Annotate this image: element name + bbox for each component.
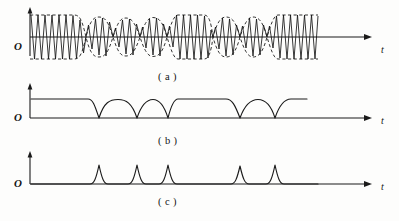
origin-label-c: O (14, 178, 22, 189)
t-axis-label-a: t (381, 45, 384, 55)
clipped-envelope-trace-b (31, 99, 307, 118)
panel-b-y-axis (28, 83, 33, 118)
t-axis-label-b: t (381, 116, 384, 126)
panel-c-waveform (0, 144, 399, 221)
panel-b-t-axis (30, 115, 372, 121)
panel-caption-b: ( b ) (158, 136, 178, 147)
panel-a-waveform (0, 0, 399, 72)
t-axis-label-c: t (381, 182, 384, 192)
panel-caption-c: ( c ) (158, 197, 177, 208)
panel-a-y-axis (28, 7, 33, 56)
pulse-train-trace-c (31, 165, 318, 184)
figure-root: O t ( a ) O t ( b ) O t ( c ) (0, 0, 399, 221)
origin-label-a: O (14, 41, 22, 52)
origin-label-b: O (14, 112, 22, 123)
panel-c-y-axis (28, 151, 33, 184)
panel-b-waveform (0, 72, 399, 144)
panel-caption-a: ( a ) (158, 72, 177, 83)
